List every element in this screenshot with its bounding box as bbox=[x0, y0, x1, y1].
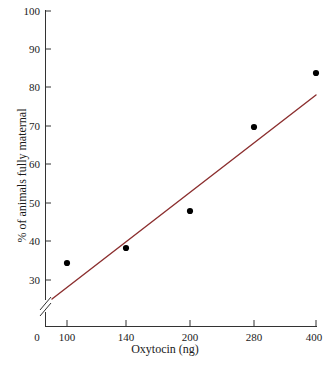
y-axis-ticks bbox=[46, 11, 52, 280]
y-axis-title: % of animals fully maternal bbox=[15, 86, 30, 266]
data-point bbox=[123, 245, 129, 251]
chart-figure: 100 90 80 70 60 50 40 30 0 100 140 200 2… bbox=[0, 0, 330, 368]
x-axis-ticks bbox=[67, 320, 316, 327]
data-point bbox=[313, 70, 319, 76]
data-points bbox=[64, 70, 319, 266]
scatter-plot-canvas bbox=[0, 0, 330, 368]
x-axis-title: Oxytocin (ng) bbox=[0, 342, 330, 357]
y-tick-label-30: 30 bbox=[12, 275, 40, 286]
y-tick-label-100: 100 bbox=[12, 6, 40, 17]
data-point bbox=[187, 208, 193, 214]
y-tick-label-90: 90 bbox=[12, 44, 40, 55]
data-point bbox=[64, 260, 70, 266]
data-point bbox=[251, 124, 257, 130]
regression-line bbox=[52, 95, 316, 299]
